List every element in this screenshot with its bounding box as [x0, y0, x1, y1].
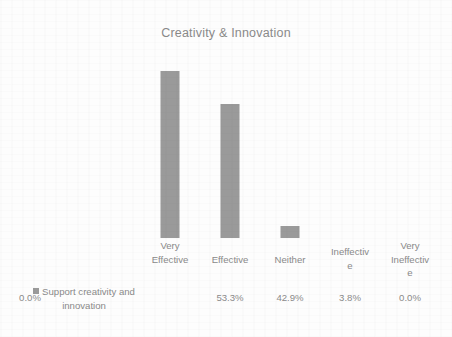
chart-container: Creativity & Innovation Very Effective E… — [0, 0, 452, 337]
category-label-line1: Very — [380, 239, 440, 253]
value-very-effective: 53.3% — [200, 292, 260, 303]
category-label-ineffective: Ineffectiv e — [320, 245, 380, 272]
bar-neither[interactable] — [281, 226, 300, 238]
category-label-very-effective: Very Effective — [140, 239, 200, 266]
category-label-line2: Effective — [140, 253, 200, 267]
value-ineffective: 0.0% — [380, 292, 440, 303]
category-label-line1: Ineffectiv — [320, 245, 380, 259]
bar-slot-very-effective — [140, 55, 200, 238]
plot-area — [140, 55, 440, 238]
category-label-line2: e — [320, 259, 380, 273]
category-label-line1: Very — [140, 239, 200, 253]
category-axis-labels: Very Effective Effective Neither Ineffec… — [140, 239, 440, 285]
legend-and-value-row: Support creativity and innovation 53.3% … — [0, 285, 452, 315]
bar-slot-ineffective — [320, 55, 380, 238]
bar-very-effective[interactable] — [161, 71, 180, 238]
bar-slot-very-ineffective — [380, 55, 440, 238]
value-effective: 42.9% — [260, 292, 320, 303]
bar-effective[interactable] — [221, 104, 240, 238]
bar-slot-effective — [200, 55, 260, 238]
category-label-neither: Neither — [260, 253, 320, 267]
category-label-line1: Effective — [200, 253, 260, 267]
bar-slot-neither — [260, 55, 320, 238]
value-very-ineffective: 0.0% — [0, 292, 60, 303]
category-label-line1: Neither — [260, 253, 320, 267]
category-label-line2: Ineffectiv — [380, 253, 440, 267]
category-label-line3: e — [380, 266, 440, 280]
value-neither: 3.8% — [320, 292, 380, 303]
category-label-very-ineffective: Very Ineffectiv e — [380, 239, 440, 280]
category-label-effective: Effective — [200, 253, 260, 267]
chart-title: Creativity & Innovation — [0, 26, 452, 40]
